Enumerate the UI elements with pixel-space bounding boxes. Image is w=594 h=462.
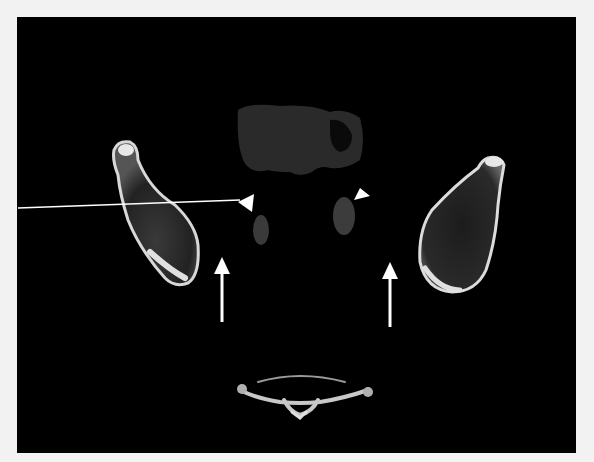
- left-bone: [114, 142, 199, 285]
- upper-soft-tissue-mass: [238, 105, 363, 175]
- left-arrowhead-icon: [238, 194, 254, 212]
- image-frame: [0, 0, 594, 462]
- left-arrow-icon: [214, 257, 230, 322]
- ct-scan-graphic: [0, 0, 594, 462]
- left-soft-tissue-oval: [253, 215, 269, 245]
- right-bone: [420, 157, 504, 292]
- right-soft-tissue-oval: [333, 197, 355, 235]
- vertebra: [237, 376, 373, 418]
- right-arrowhead-icon: [354, 188, 370, 200]
- right-arrow-icon: [382, 262, 398, 327]
